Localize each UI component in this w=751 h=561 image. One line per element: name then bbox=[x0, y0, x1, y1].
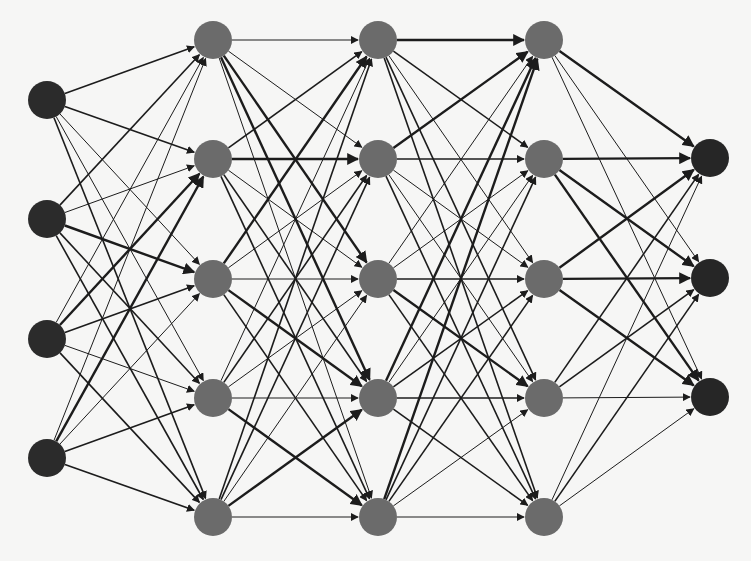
hidden-1-node-3 bbox=[194, 260, 232, 298]
connection-edge bbox=[65, 464, 194, 510]
network-canvas bbox=[0, 0, 751, 561]
hidden-3-node-3 bbox=[525, 260, 563, 298]
hidden-3-node-4 bbox=[525, 379, 563, 417]
hidden-2-node-4 bbox=[359, 379, 397, 417]
input-node-1 bbox=[28, 81, 66, 119]
hidden-1-node-2 bbox=[194, 140, 232, 178]
connection-edge bbox=[560, 51, 694, 146]
connection-edge bbox=[559, 409, 693, 506]
hidden-3-node-5 bbox=[525, 498, 563, 536]
output-node-1 bbox=[691, 139, 729, 177]
hidden-1-node-1 bbox=[194, 21, 232, 59]
input-node-2 bbox=[28, 200, 66, 238]
input-node-3 bbox=[28, 320, 66, 358]
hidden-1-node-5 bbox=[194, 498, 232, 536]
hidden-2-node-2 bbox=[359, 140, 397, 178]
connection-edge bbox=[56, 236, 203, 500]
connection-edge bbox=[56, 177, 203, 442]
connection-edge bbox=[54, 59, 206, 441]
hidden-3-node-1 bbox=[525, 21, 563, 59]
input-node-4 bbox=[28, 439, 66, 477]
connection-edge bbox=[65, 166, 194, 213]
hidden-2-node-1 bbox=[359, 21, 397, 59]
hidden-2-node-5 bbox=[359, 498, 397, 536]
connection-edge bbox=[65, 405, 194, 452]
connection-edge bbox=[65, 47, 194, 94]
hidden-3-node-2 bbox=[525, 140, 563, 178]
connection-edge bbox=[563, 158, 690, 159]
hidden-1-node-4 bbox=[194, 379, 232, 417]
neural-network-diagram bbox=[0, 0, 751, 561]
connection-edge bbox=[60, 294, 200, 444]
output-node-2 bbox=[691, 259, 729, 297]
hidden-2-node-3 bbox=[359, 260, 397, 298]
connection-edge bbox=[60, 55, 200, 205]
connection-edge bbox=[56, 58, 203, 323]
connection-edge bbox=[552, 176, 702, 500]
output-node-3 bbox=[691, 378, 729, 416]
